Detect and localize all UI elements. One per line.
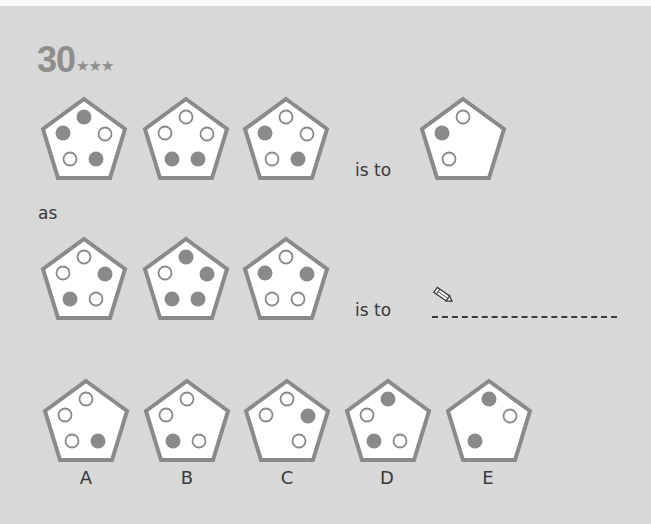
empty-dot-icon xyxy=(180,111,193,124)
empty-dot-icon xyxy=(160,409,173,422)
filled-dot-icon xyxy=(468,434,483,449)
filled-dot-icon xyxy=(56,126,71,141)
filled-dot-icon xyxy=(258,126,273,141)
option-d-label[interactable]: D xyxy=(372,468,402,488)
filled-dot-icon xyxy=(166,434,181,449)
answer-blank-line[interactable] xyxy=(432,316,617,318)
option-b-label[interactable]: B xyxy=(172,468,202,488)
filled-dot-icon xyxy=(435,126,450,141)
option-e-label[interactable]: E xyxy=(473,468,503,488)
filled-dot-icon xyxy=(63,292,78,307)
empty-dot-icon xyxy=(66,435,79,448)
empty-dot-icon xyxy=(181,393,194,406)
filled-dot-icon xyxy=(291,152,306,167)
empty-dot-icon xyxy=(64,153,77,166)
option-c-shape[interactable] xyxy=(242,378,332,464)
is-to-label-2: is to xyxy=(355,300,391,320)
row1-shape-1 xyxy=(39,96,129,182)
filled-dot-icon xyxy=(165,152,180,167)
empty-dot-icon xyxy=(260,409,273,422)
filled-dot-icon xyxy=(191,152,206,167)
row1-shape-3 xyxy=(241,96,331,182)
empty-dot-icon xyxy=(292,293,305,306)
filled-dot-icon xyxy=(482,392,497,407)
option-a-shape[interactable] xyxy=(41,378,131,464)
empty-dot-icon xyxy=(90,293,103,306)
option-b-shape[interactable] xyxy=(142,378,232,464)
option-c-label[interactable]: C xyxy=(272,468,302,488)
empty-dot-icon xyxy=(281,393,294,406)
empty-dot-icon xyxy=(394,435,407,448)
filled-dot-icon xyxy=(258,266,273,281)
empty-dot-icon xyxy=(266,153,279,166)
row1-result-shape xyxy=(418,96,508,182)
filled-dot-icon xyxy=(98,267,113,282)
empty-dot-icon xyxy=(78,251,91,264)
empty-dot-icon xyxy=(280,251,293,264)
filled-dot-icon xyxy=(89,152,104,167)
empty-dot-icon xyxy=(457,111,470,124)
empty-dot-icon xyxy=(59,409,72,422)
empty-dot-icon xyxy=(443,153,456,166)
empty-dot-icon xyxy=(293,435,306,448)
option-d-shape[interactable] xyxy=(343,378,433,464)
filled-dot-icon xyxy=(191,292,206,307)
filled-dot-icon xyxy=(301,409,316,424)
row1-shape-2 xyxy=(141,96,231,182)
filled-dot-icon xyxy=(165,292,180,307)
puzzle-number: 30 xyxy=(37,40,75,80)
empty-dot-icon xyxy=(80,393,93,406)
empty-dot-icon xyxy=(361,409,374,422)
empty-dot-icon xyxy=(159,267,172,280)
option-e-shape[interactable] xyxy=(444,378,534,464)
option-a-label[interactable]: A xyxy=(71,468,101,488)
empty-dot-icon xyxy=(57,267,70,280)
filled-dot-icon xyxy=(179,250,194,265)
pencil-icon xyxy=(431,285,455,305)
row2-shape-2 xyxy=(141,236,231,322)
as-label: as xyxy=(38,203,57,223)
empty-dot-icon xyxy=(266,293,279,306)
is-to-label-1: is to xyxy=(355,160,391,180)
empty-dot-icon xyxy=(504,410,517,423)
row2-shape-3 xyxy=(241,236,331,322)
row2-shape-1 xyxy=(39,236,129,322)
empty-dot-icon xyxy=(193,435,206,448)
filled-dot-icon xyxy=(77,110,92,125)
filled-dot-icon xyxy=(300,267,315,282)
filled-dot-icon xyxy=(91,434,106,449)
empty-dot-icon xyxy=(301,128,314,141)
empty-dot-icon xyxy=(159,127,172,140)
filled-dot-icon xyxy=(381,392,396,407)
filled-dot-icon xyxy=(200,267,215,282)
filled-dot-icon xyxy=(367,434,382,449)
empty-dot-icon xyxy=(99,128,112,141)
empty-dot-icon xyxy=(201,128,214,141)
empty-dot-icon xyxy=(280,111,293,124)
difficulty-stars-icon: ★★★ xyxy=(76,58,113,74)
